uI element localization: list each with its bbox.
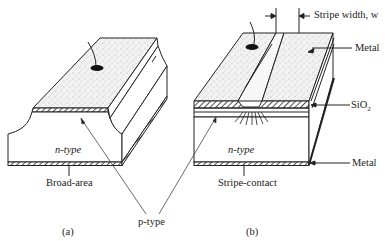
sio2-text: SiO <box>351 99 367 110</box>
stripe-contact-device <box>194 8 352 176</box>
top-metal-label: Metal <box>355 43 380 54</box>
bottom-metal-label: Metal <box>352 158 377 169</box>
p-type-label: p-type <box>138 217 165 228</box>
laser-diagram <box>0 0 385 241</box>
caption-b: (b) <box>246 227 258 238</box>
stripe-contact-label: Stripe-contact <box>218 178 277 189</box>
stripe-width-label: Stripe width, w <box>314 10 378 21</box>
broad-area-label: Broad-area <box>46 178 93 189</box>
broad-area-device <box>8 38 167 176</box>
n-type-text-a: n-type <box>55 144 81 155</box>
n-type-label-b: n-type <box>228 145 254 156</box>
n-type-label-a: n-type <box>55 145 81 156</box>
caption-a: (a) <box>62 227 74 238</box>
sio2-subscript: 2 <box>367 105 371 113</box>
sio2-label: SiO2 <box>351 100 371 113</box>
